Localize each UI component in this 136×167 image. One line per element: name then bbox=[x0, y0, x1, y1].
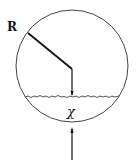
diagram-canvas: R χ bbox=[0, 0, 136, 167]
arrowhead-down-icon bbox=[71, 91, 74, 96]
radius-line bbox=[28, 33, 72, 69]
arrowhead-up-icon bbox=[71, 127, 74, 133]
chi-label: χ bbox=[66, 104, 76, 119]
radius-label: R bbox=[7, 20, 18, 34]
